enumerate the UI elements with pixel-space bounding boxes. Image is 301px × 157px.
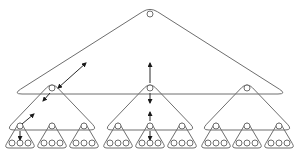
leaf-node xyxy=(171,140,177,146)
leaf-node xyxy=(41,140,47,146)
leaf-node xyxy=(252,140,258,146)
leaf-node xyxy=(107,140,113,146)
leaf-node xyxy=(9,140,15,146)
root-node xyxy=(147,11,153,17)
leaf-node xyxy=(139,140,145,146)
level3-node xyxy=(81,123,87,129)
leaf-node xyxy=(221,140,227,146)
leaf-node xyxy=(236,140,242,146)
level2-node xyxy=(49,85,55,91)
level3-node xyxy=(147,123,153,129)
leaf-node xyxy=(17,140,23,146)
level3-node xyxy=(213,123,219,129)
level3-node xyxy=(115,123,121,129)
level2-node xyxy=(147,85,153,91)
leaf-node xyxy=(205,140,211,146)
level3-node xyxy=(276,123,282,129)
leaf-node xyxy=(81,140,87,146)
level3-node xyxy=(179,123,185,129)
leaf-node xyxy=(57,140,63,146)
level3-node xyxy=(49,123,55,129)
arrow-bidirectional-diagonal xyxy=(58,63,86,88)
leaf-node xyxy=(123,140,129,146)
tree-diagram xyxy=(0,0,301,157)
leaf-node xyxy=(155,140,161,146)
leaf-node xyxy=(115,140,121,146)
leaf-node xyxy=(213,140,219,146)
leaf-node xyxy=(73,140,79,146)
leaf-node xyxy=(244,140,250,146)
level2-node xyxy=(244,85,250,91)
leaf-node xyxy=(49,140,55,146)
leaf-node xyxy=(284,140,290,146)
leaf-node xyxy=(25,140,31,146)
leaf-node xyxy=(268,140,274,146)
leaf-node xyxy=(89,140,95,146)
leaf-node xyxy=(147,140,153,146)
leaf-node xyxy=(187,140,193,146)
arrow-diagonal-up xyxy=(22,114,34,124)
level3-node xyxy=(244,123,250,129)
leaf-node xyxy=(179,140,185,146)
leaf-node xyxy=(276,140,282,146)
